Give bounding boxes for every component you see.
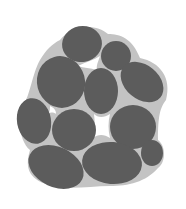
particle-packing-diagram: [0, 0, 186, 209]
particle-p7: [52, 109, 96, 151]
particle-p4: [84, 68, 118, 114]
particle-p11: [141, 140, 163, 166]
